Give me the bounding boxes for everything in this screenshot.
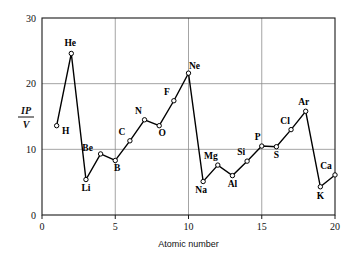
element-symbol-label: Be	[82, 143, 93, 153]
y-tick-label: 10	[26, 144, 36, 155]
element-symbol-label: F	[164, 87, 170, 97]
chart-background	[0, 0, 352, 263]
data-point-marker	[318, 185, 322, 189]
element-symbol-label: N	[135, 106, 142, 116]
data-point-marker	[98, 152, 102, 156]
element-symbol-label: H	[62, 126, 70, 136]
chart-canvas: 05101520 0102030 HHeLiBeBCNOFNeNaMgAlSiP…	[0, 0, 352, 263]
data-point-marker	[186, 71, 190, 75]
element-symbol-label: Ar	[298, 97, 310, 107]
element-symbol-label: B	[114, 163, 121, 173]
x-tick-label: 10	[184, 221, 194, 232]
element-symbol-label: Al	[228, 179, 238, 189]
data-point-marker	[142, 118, 146, 122]
x-axis-title: Atomic number	[158, 239, 219, 249]
element-symbol-label: P	[255, 132, 261, 142]
element-symbol-label: Si	[237, 147, 245, 157]
element-symbol-label: Ne	[189, 61, 200, 71]
data-point-marker	[289, 127, 293, 131]
data-point-marker	[128, 139, 132, 143]
x-tick-label: 15	[257, 221, 267, 232]
data-point-marker	[84, 177, 88, 181]
data-point-marker	[216, 163, 220, 167]
data-point-marker	[69, 51, 73, 55]
data-point-marker	[245, 159, 249, 163]
y-tick-label: 0	[31, 210, 36, 221]
data-point-marker	[54, 123, 58, 127]
data-point-marker	[274, 145, 278, 149]
x-tick-label: 5	[113, 221, 118, 232]
element-symbol-label: Cl	[280, 116, 290, 126]
element-symbol-label: Na	[195, 185, 207, 195]
data-point-marker	[260, 144, 264, 148]
element-symbol-label: He	[64, 38, 76, 48]
x-tick-label: 20	[330, 221, 340, 232]
y-axis-title-numerator: IP	[20, 105, 32, 116]
data-point-marker	[230, 173, 234, 177]
element-symbol-label: K	[317, 191, 325, 201]
data-point-marker	[172, 99, 176, 103]
ionization-potential-chart: 05101520 0102030 HHeLiBeBCNOFNeNaMgAlSiP…	[0, 0, 352, 263]
element-symbol-label: O	[159, 128, 166, 138]
element-symbol-label: Ca	[320, 161, 332, 171]
element-symbol-label: Li	[81, 183, 90, 193]
x-tick-label: 0	[40, 221, 45, 232]
element-symbol-label: Mg	[204, 151, 218, 161]
y-tick-label: 30	[26, 13, 36, 24]
element-symbol-label: C	[118, 127, 125, 137]
y-tick-label: 20	[26, 78, 36, 89]
element-symbol-label: S	[274, 150, 279, 160]
data-point-marker	[304, 109, 308, 113]
data-point-marker	[201, 179, 205, 183]
data-point-marker	[333, 173, 337, 177]
